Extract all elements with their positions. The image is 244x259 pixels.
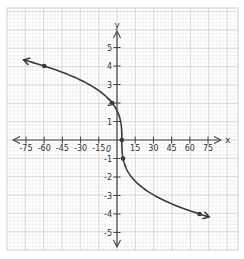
x-tick-label: -30 bbox=[74, 144, 87, 153]
x-tick-label: 75 bbox=[203, 144, 213, 153]
y-tick-label: 1 bbox=[107, 118, 112, 127]
y-tick-label: -3 bbox=[104, 192, 112, 201]
y-tick-label: -4 bbox=[104, 210, 112, 219]
x-tick-label: -15 bbox=[92, 144, 105, 153]
x-tick-label: -45 bbox=[56, 144, 69, 153]
x-axis-label: x bbox=[225, 135, 231, 145]
y-tick-label: 3 bbox=[107, 81, 112, 90]
y-tick-label: -1 bbox=[104, 155, 112, 164]
marked-point bbox=[110, 101, 115, 106]
marked-point bbox=[121, 156, 126, 161]
y-axis-label: y bbox=[115, 20, 121, 30]
y-tick-label: -2 bbox=[104, 173, 112, 182]
x-tick-label: -60 bbox=[38, 144, 51, 153]
marked-point bbox=[120, 138, 125, 143]
x-tick-label: 15 bbox=[130, 144, 140, 153]
y-tick-label: 4 bbox=[107, 62, 112, 71]
x-tick-label: 60 bbox=[185, 144, 195, 153]
y-tick-label: 5 bbox=[107, 44, 112, 53]
marked-point bbox=[197, 212, 202, 217]
x-tick-label: -75 bbox=[19, 144, 32, 153]
origin-label: 0 bbox=[106, 145, 111, 154]
marked-point bbox=[42, 64, 47, 69]
cube-root-graph: -75-60-45-30-15153045607554321-1-2-3-4-5… bbox=[0, 0, 244, 259]
x-tick-label: 45 bbox=[167, 144, 177, 153]
y-tick-label: -5 bbox=[104, 229, 112, 238]
x-tick-label: 30 bbox=[148, 144, 158, 153]
